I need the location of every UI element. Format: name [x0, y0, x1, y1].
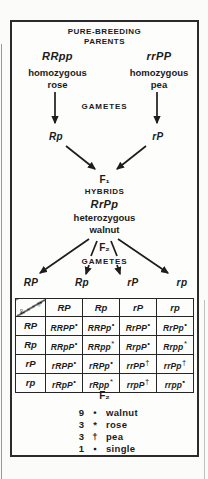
punnett-cell: rRpP•: [46, 373, 83, 392]
walnut-symbol-icon: •: [84, 407, 106, 418]
male-icon: ♂: [36, 299, 43, 309]
parent-left-desc: homozygous: [22, 68, 93, 78]
phenotype-ratio-legend: 9 • walnut 3 * rose 3 † pea 1 ▪ single: [70, 406, 138, 455]
female-icon: ♀: [18, 306, 25, 316]
gamete-right: rP: [124, 132, 192, 142]
punnett-cell: RRPP•: [46, 316, 83, 335]
punnett-cell: rRPp•: [83, 354, 120, 373]
punnett-cell: RrpP•: [120, 335, 157, 354]
pure-breeding-label: PURE-BREEDING: [12, 28, 197, 36]
punnett-col-header: rp: [157, 299, 194, 317]
parent-right-desc: homozygous: [124, 68, 194, 78]
punnett-cell: rrPp†: [157, 354, 194, 373]
f2-gamete-RP: RP: [16, 278, 46, 288]
punnett-cell: RRpP•: [46, 335, 83, 354]
punnett-cell: Rrpp*: [157, 335, 194, 354]
punnett-cell: RrPP•: [120, 316, 157, 335]
punnett-col-header: RP: [46, 299, 83, 317]
f2-results-label: F₂: [12, 391, 197, 401]
dihybrid-cross-figure: PURE-BREEDING PARENTS RRpp rrPP homozygo…: [10, 20, 199, 457]
page-edge-line: [204, 300, 205, 479]
punnett-col-header: Rp: [83, 299, 120, 317]
punnett-cell: RrPp•: [157, 316, 194, 335]
page-edge-line: [1, 44, 2, 479]
legend-item-pea: 3 † pea: [70, 430, 138, 442]
punnett-row-header: rP: [16, 354, 46, 373]
punnett-row: Rp RRpP• RRpp* RrpP• Rrpp*: [16, 335, 194, 354]
parents-label: PARENTS: [12, 38, 197, 46]
parent-right-phenotype: pea: [124, 80, 194, 90]
rose-symbol-icon: *: [84, 419, 106, 430]
f2-gamete-rp: rp: [167, 278, 197, 288]
punnett-row: rP rRPP• rRPp• rrPP† rrPp†: [16, 354, 194, 373]
punnett-corner-cell: ♀ ♂: [16, 299, 46, 317]
punnett-cell: rrpp▪: [157, 373, 194, 392]
gamete-left: Rp: [22, 132, 90, 142]
punnett-col-header: rP: [120, 299, 157, 317]
legend-item-rose: 3 * rose: [70, 418, 138, 430]
f1-label: F₁: [12, 175, 197, 185]
parent-left-phenotype: rose: [22, 80, 93, 90]
hybrids-label: HYBRIDS: [12, 188, 197, 196]
punnett-cell: rRPP•: [46, 354, 83, 373]
pea-symbol-icon: †: [84, 431, 106, 442]
punnett-row-header: RP: [16, 316, 46, 335]
legend-item-walnut: 9 • walnut: [70, 406, 138, 418]
f1-genotype: RrPp: [12, 199, 197, 210]
legend-item-single: 1 ▪ single: [70, 443, 138, 455]
f2-label: F₂: [12, 243, 197, 253]
punnett-cell: rrpP†: [120, 373, 157, 392]
f2-gamete-Rp: Rp: [67, 278, 97, 288]
f1-desc: heterozygous: [12, 213, 197, 223]
punnett-square: ♀ ♂ RP Rp rP rp RP RRPP• RRPp• RrPP• RrP…: [15, 298, 194, 393]
punnett-cell: RRpp*: [83, 335, 120, 354]
punnett-row-header: Rp: [16, 335, 46, 354]
punnett-row: RP RRPP• RRPp• RrPP• RrPp•: [16, 316, 194, 335]
punnett-row-header: rp: [16, 373, 46, 392]
punnett-cell: rrPP†: [120, 354, 157, 373]
punnett-cell: RRPp•: [83, 316, 120, 335]
genetics-diagram-page: PURE-BREEDING PARENTS RRpp rrPP homozygo…: [0, 0, 208, 479]
punnett-header-row: ♀ ♂ RP Rp rP rp: [16, 299, 194, 317]
gametes-label: GAMETES: [12, 103, 197, 111]
parent-right-genotype: rrPP: [124, 51, 194, 62]
single-symbol-icon: ▪: [84, 443, 106, 454]
parent-left-genotype: RRpp: [22, 51, 93, 62]
f1-phenotype: walnut: [12, 225, 197, 235]
f2-gamete-rP: rP: [118, 278, 148, 288]
f2-gametes-label: GAMETES: [12, 258, 197, 266]
